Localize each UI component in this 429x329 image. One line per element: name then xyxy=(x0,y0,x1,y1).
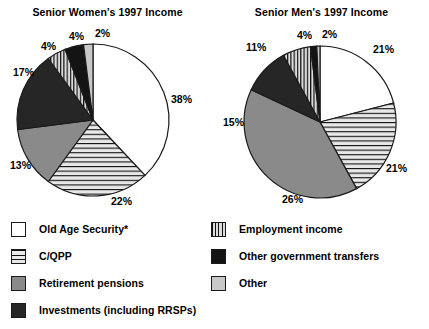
dark-gray-swatch-icon xyxy=(11,303,26,318)
pct-label-cqpp-women: 22% xyxy=(111,196,132,207)
pct-label-employment-income-men: 11% xyxy=(246,42,266,53)
pct-label-investments-men: 15% xyxy=(223,117,244,128)
medium-gray-swatch-icon xyxy=(11,276,26,291)
legend-item-cqpp[interactable]: C/QPP xyxy=(11,248,72,264)
legend-item-other[interactable]: Other xyxy=(211,275,267,291)
horizontal-stripes-swatch-icon xyxy=(11,249,26,264)
pct-label-old-age-security-men: 21% xyxy=(373,44,394,55)
pie-chart-senior-women: Senior Women's 1997 Income 38% 22% 1 xyxy=(0,0,215,215)
legend-label-employment-income: Employment income xyxy=(239,223,343,235)
pie-chart-senior-men: Senior Men's 1997 Income 21% 21% 26% xyxy=(214,0,429,215)
charts-container: Senior Women's 1997 Income 38% 22% 1 xyxy=(0,0,429,215)
pct-label-old-age-security-women: 38% xyxy=(171,94,192,105)
pct-label-investments-women: 17% xyxy=(13,67,34,78)
pct-label-cqpp-men: 21% xyxy=(386,163,407,174)
legend-label-cqpp: C/QPP xyxy=(39,250,72,262)
legend-item-other-government-transfers[interactable]: Other government transfers xyxy=(211,248,379,264)
pct-label-other-men: 2% xyxy=(322,29,337,40)
pct-label-other-government-transfers-women: 4% xyxy=(69,31,84,42)
legend-item-old-age-security[interactable]: Old Age Security* xyxy=(11,221,128,237)
pct-label-other-women: 2% xyxy=(95,28,110,39)
legend-item-employment-income[interactable]: Employment income xyxy=(211,221,343,237)
pct-label-employment-income-women: 4% xyxy=(41,41,56,52)
light-gray-swatch-icon xyxy=(211,276,226,291)
legend-item-retirement-pensions[interactable]: Retirement pensions xyxy=(11,275,144,291)
white-empty-swatch-icon xyxy=(11,222,26,237)
legend-label-retirement-pensions: Retirement pensions xyxy=(39,277,144,289)
legend-label-old-age-security: Old Age Security* xyxy=(39,223,128,235)
legend-label-investments: Investments (including RRSPs) xyxy=(39,304,196,316)
legend-label-other: Other xyxy=(239,277,267,289)
legend-item-investments[interactable]: Investments (including RRSPs) xyxy=(11,302,196,318)
pct-label-other-government-transfers-men: 4% xyxy=(297,30,312,41)
legend-label-other-government-transfers: Other government transfers xyxy=(239,250,379,262)
chart-legend: Old Age Security* C/QPP Retirement pensi… xyxy=(0,215,429,329)
pct-label-retirement-pensions-women: 13% xyxy=(10,160,31,171)
vertical-stripes-swatch-icon xyxy=(211,222,226,237)
pct-label-retirement-pensions-men: 26% xyxy=(282,194,303,205)
black-swatch-icon xyxy=(211,249,226,264)
